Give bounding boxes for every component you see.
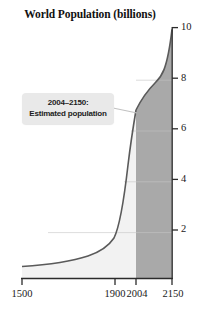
y-tick-label-6: 6: [181, 122, 186, 133]
world-population-chart: World Population (billions): [0, 0, 205, 314]
estimate-callout: 2004–2150: Estimated population: [22, 93, 114, 124]
y-tick-label-2: 2: [181, 223, 186, 234]
y-tick-label-8: 8: [181, 72, 186, 83]
y-tick-label-10: 10: [181, 21, 192, 32]
x-tick-label-1500: 1500: [2, 288, 42, 299]
y-axis-ticks: [172, 28, 178, 230]
chart-plot-area: [0, 0, 205, 314]
area-projected: [136, 29, 172, 278]
y-tick-label-4: 4: [181, 173, 186, 184]
area-historical: [22, 110, 136, 278]
x-tick-label-2150: 2150: [153, 288, 193, 299]
callout-line-1: 2004–2150:: [25, 97, 111, 108]
x-tick-label-2004: 2004: [117, 288, 157, 299]
callout-leader-line: [113, 108, 137, 113]
callout-line-2: Estimated population: [25, 108, 111, 119]
